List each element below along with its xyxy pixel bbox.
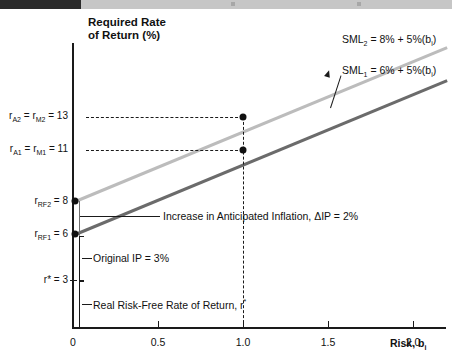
shift-arrow-head — [324, 69, 332, 78]
real-rate-brace-bottom — [79, 327, 84, 328]
x-tick-label-1.5: 1.5 — [321, 336, 336, 348]
annotation-original-ip: Original IP = 3% — [93, 252, 169, 264]
real-rate-brace — [79, 281, 80, 327]
sml1-label: SML1 = 6% + 5%(bi) — [342, 64, 436, 78]
x-tick-0 — [73, 321, 74, 328]
original-ip-brace — [79, 236, 80, 280]
annotation-real-risk-free-rate: Real Risk-Free Rate of Return, r* — [93, 298, 246, 311]
point-rRF1-6 — [72, 231, 79, 238]
y-label-rA2-text: rA2 = rM2 = 13 — [9, 110, 68, 123]
y-axis-title: Required Rate of Return (%) — [88, 16, 166, 41]
y-axis-line — [72, 43, 74, 329]
x-tick-label-1.0: 1.0 — [236, 336, 251, 348]
x-axis-title-sub: i — [424, 344, 426, 351]
guide-line-r13 — [86, 117, 243, 118]
inflation-leader-line — [80, 216, 160, 217]
original-ip-brace-top — [79, 236, 84, 237]
x-axis-line — [72, 327, 446, 329]
x-tick-label-2.0: 2.0 — [406, 336, 421, 348]
y-label-rRF2-text: rRF2 = 8 — [34, 195, 68, 208]
x-tick-label-0: 0 — [70, 336, 76, 348]
header-bar-gray — [81, 0, 452, 9]
x-tick-1.5 — [328, 321, 329, 328]
inflation-gap-connector — [79, 201, 80, 235]
original-ip-leader — [82, 258, 92, 259]
header-bar-mark-2 — [357, 2, 361, 6]
header-bar-dark — [0, 0, 81, 9]
real-rate-leader — [82, 304, 92, 305]
sml2-label: SML2 = 8% + 5%(bi) — [342, 33, 436, 47]
point-rA1-rM1-11 — [240, 147, 247, 154]
header-bar-mark-1 — [231, 2, 235, 6]
point-rA2-rM2-13 — [240, 114, 247, 121]
y-label-rA1-text: rA1 = rM1 = 11 — [10, 143, 68, 156]
y-label-rRF1-text: rRF1 = 6 — [34, 228, 68, 241]
figure-canvas: Required Rate of Return (%) Risk, bi 0 0… — [0, 0, 452, 364]
real-rate-brace-top — [79, 281, 84, 282]
guide-line-r11 — [86, 150, 243, 151]
y-label-rstar-text: r* = 3 — [44, 274, 68, 285]
y-tick-3 — [70, 280, 77, 281]
annotation-inflation-increase: Increase in Anticipated Inflation, ΔIP =… — [163, 210, 358, 222]
point-rRF2-8 — [72, 198, 79, 205]
x-tick-label-0.5: 0.5 — [151, 336, 166, 348]
x-tick-2.0 — [413, 321, 414, 328]
x-tick-0.5 — [158, 321, 159, 328]
